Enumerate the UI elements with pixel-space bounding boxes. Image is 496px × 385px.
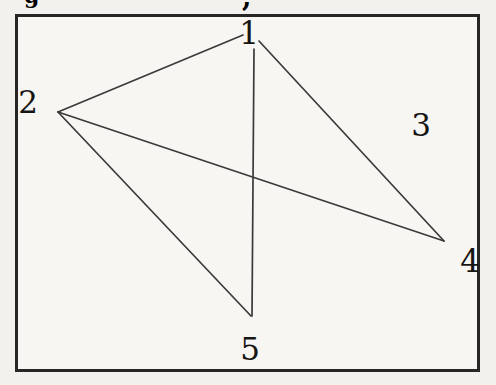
edge-1-2 — [58, 35, 243, 112]
vertex-label-2: 2 — [18, 87, 38, 118]
scanned-figure-page: g , 1 2 3 4 5 — [0, 0, 496, 385]
vertex-label-4: 4 — [460, 246, 480, 277]
vertex-label-3: 3 — [411, 110, 431, 141]
vertex-label-1: 1 — [239, 18, 259, 49]
edge-1-5 — [252, 49, 254, 316]
graph-edges — [0, 0, 496, 385]
edge-2-5 — [58, 112, 251, 316]
edge-2-4 — [58, 112, 444, 241]
vertex-label-5: 5 — [240, 334, 260, 365]
